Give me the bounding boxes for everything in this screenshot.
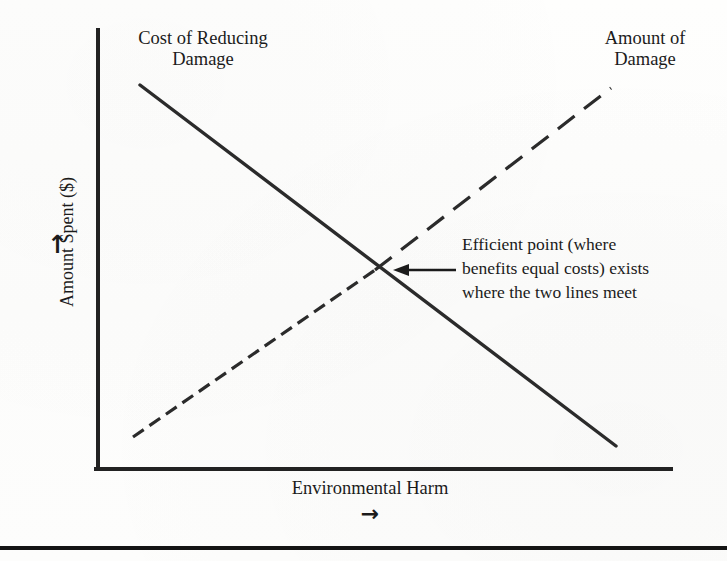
- series-label-damage-line1: Amount of: [605, 28, 686, 48]
- x-axis-arrow-right-icon: →: [240, 503, 500, 525]
- annotation-line-3: where the two lines meet: [462, 282, 637, 302]
- figure-canvas: Cost of Reducing Damage Amount of Damage…: [0, 0, 727, 561]
- annotation-line-2: benefits equal costs) exists: [462, 258, 649, 278]
- annotation-line-1: Efficient point (where: [462, 234, 616, 254]
- series-label-cost-of-reducing-damage: Cost of Reducing Damage: [108, 28, 298, 69]
- y-axis-arrow-up-icon: ↑: [47, 232, 68, 257]
- series-label-damage-line2: Damage: [614, 49, 676, 69]
- series-label-amount-of-damage: Amount of Damage: [575, 28, 715, 69]
- series-label-cost-line1: Cost of Reducing: [138, 28, 268, 48]
- x-axis-label: Environmental Harm: [240, 478, 500, 499]
- series-line-amount-of-damage-lower: [133, 270, 375, 437]
- series-label-cost-line2: Damage: [172, 49, 234, 69]
- annotation-pointer-arrow-icon: [393, 264, 456, 276]
- bottom-divider-rule: [0, 546, 727, 550]
- annotation-efficient-point: Efficient point (where benefits equal co…: [462, 232, 720, 304]
